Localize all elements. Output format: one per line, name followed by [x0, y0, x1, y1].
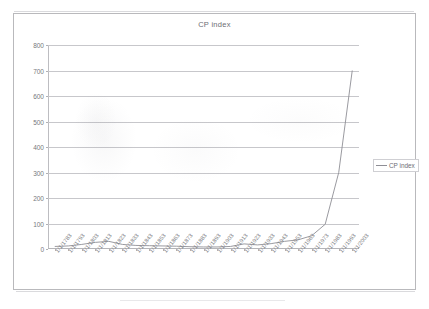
- y-axis-tick-label: 700: [33, 67, 44, 74]
- series-line-chart: [48, 45, 359, 249]
- y-axis-tick-label: 0: [40, 246, 44, 253]
- y-axis-tick-label: 600: [33, 93, 44, 100]
- series-line-cp-index: [55, 71, 352, 247]
- scan-streak: [14, 11, 414, 12]
- scan-streak: [120, 300, 285, 301]
- x-axis-tick-labels: 1/1/17831/1/17931/1/18031/1/18131/1/1823…: [48, 250, 359, 296]
- y-axis-tick-label: 100: [33, 220, 44, 227]
- legend-line-swatch: [376, 165, 387, 166]
- chart-frame: CP index 8007006005004003002001000 1/1/1…: [13, 13, 416, 290]
- y-axis-tick-label: 500: [33, 118, 44, 125]
- legend-label-cp-index: CP index: [389, 162, 415, 169]
- legend: CP index: [373, 159, 419, 172]
- plot-area: 8007006005004003002001000: [48, 45, 359, 249]
- y-axis-tick-label: 800: [33, 42, 44, 49]
- y-axis-tick-label: 300: [33, 169, 44, 176]
- y-axis-tick-label: 400: [33, 144, 44, 151]
- y-axis-tick-label: 200: [33, 195, 44, 202]
- chart-title: CP index: [14, 20, 415, 29]
